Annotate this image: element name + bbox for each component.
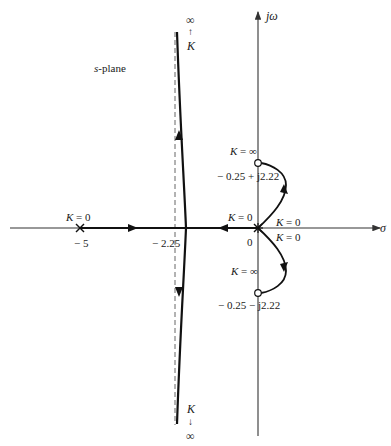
bottom-arrow-label: ↓ [188,417,193,427]
plane-label: s-plane [94,63,126,74]
lower-zero-value: − 0.25 − j2.22 [218,300,280,311]
zero-marker-lower [255,290,262,297]
arrow-right-icon [128,224,138,232]
bottom-infinity-label: ∞ [186,430,195,442]
pole-marker-origin [253,223,263,233]
origin-k-label-left: K = 0 [228,212,253,223]
pole-minus5-k-label: K = 0 [66,212,91,223]
lower-zero-k-label: K = ∞ [231,266,258,277]
top-infinity-label: ∞ [186,14,195,26]
locus-branch-upper [177,32,186,228]
top-k-label: K [187,40,195,52]
locus-branch-lower [177,228,186,424]
root-locus-diagram [0,0,391,446]
plane-label-rest: -plane [98,62,125,74]
arrow-left-icon [218,224,228,232]
origin-k-label-right-lower: K = 0 [276,232,301,243]
zero-marker-upper [255,160,262,167]
upper-zero-value: − 0.25 + j2.22 [217,171,279,182]
bottom-k-label: K [187,403,195,415]
top-arrow-label: ↑ [188,27,193,37]
origin-k-label-right-upper: K = 0 [276,217,301,228]
real-axis-label: σ [380,222,386,234]
asymptote-value: − 2.25 [152,238,180,249]
origin-value: 0 [247,237,253,248]
upper-zero-k-label: K = ∞ [230,146,257,157]
pole-minus5-value: − 5 [74,238,88,249]
imag-axis-label: jω [266,10,278,22]
